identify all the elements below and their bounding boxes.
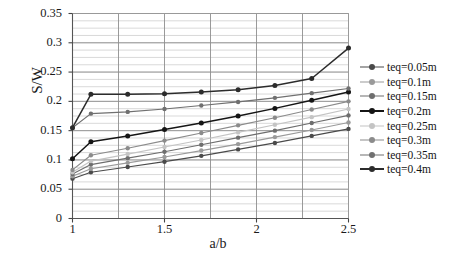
- y-tick-value: 0.35: [22, 7, 62, 20]
- y-tick-label: 0.2: [22, 94, 66, 107]
- y-tick-value: 0.05: [22, 182, 62, 195]
- legend-item: teq=0.2m: [360, 104, 474, 119]
- y-tick-label: 0.35: [22, 7, 66, 20]
- legend-label: teq=0.05m: [384, 61, 437, 73]
- legend-item: teq=0.05m: [360, 60, 474, 75]
- chart-legend: teq=0.05mteq=0.1mteq=0.15mteq=0.2mteq=0.…: [360, 60, 474, 177]
- legend-marker-icon: [360, 133, 384, 147]
- legend-marker-icon: [360, 119, 384, 133]
- x-tick-label: 1: [53, 222, 93, 237]
- x-axis-label: a/b: [168, 236, 268, 252]
- y-tick-value: 0.15: [22, 124, 62, 137]
- legend-label: teq=0.2m: [384, 105, 431, 117]
- legend-label: teq=0.15m: [384, 90, 437, 102]
- x-tick-label: 2.5: [329, 222, 369, 237]
- legend-item: teq=0.3m: [360, 133, 474, 148]
- legend-marker-icon: [360, 162, 384, 176]
- x-tick-label: 1.5: [145, 222, 185, 237]
- y-tick-value: 0.2: [22, 94, 62, 107]
- legend-marker-icon: [360, 148, 384, 162]
- legend-label: teq=0.1m: [384, 76, 431, 88]
- y-tick-label: 0.1: [22, 153, 66, 166]
- legend-marker-icon: [360, 75, 384, 89]
- y-tick-value: 0.25: [22, 65, 62, 78]
- y-tick-value: 0.3: [22, 36, 62, 49]
- y-tick-label: 0.15: [22, 124, 66, 137]
- legend-marker-icon: [360, 89, 384, 103]
- x-tick-label: 2: [237, 222, 277, 237]
- y-tick-label: 0.25: [22, 65, 66, 78]
- legend-item: teq=0.1m: [360, 75, 474, 90]
- legend-item: teq=0.25m: [360, 118, 474, 133]
- legend-item: teq=0.4m: [360, 162, 474, 177]
- legend-item: teq=0.15m: [360, 89, 474, 104]
- legend-item: teq=0.35m: [360, 148, 474, 163]
- legend-label: teq=0.35m: [384, 149, 437, 161]
- y-tick-label: 0.05: [22, 182, 66, 195]
- legend-marker-icon: [360, 60, 384, 74]
- y-tick-label: 0.3: [22, 36, 66, 49]
- legend-label: teq=0.3m: [384, 134, 431, 146]
- legend-label: teq=0.4m: [384, 163, 431, 175]
- legend-label: teq=0.25m: [384, 120, 437, 132]
- legend-marker-icon: [360, 104, 384, 118]
- y-tick-value: 0.1: [22, 153, 62, 166]
